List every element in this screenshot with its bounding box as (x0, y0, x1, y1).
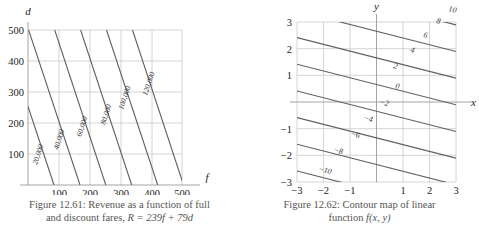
y-tick-200: 200 (8, 118, 24, 129)
contour-label-neg10: −10 (318, 164, 333, 176)
x-tick-1: 1 (400, 185, 405, 195)
x-tick-labels: −3 −2 −1 1 2 3 (291, 185, 458, 195)
contour-label-2: 2 (393, 61, 399, 71)
y-tick-400: 400 (8, 56, 24, 67)
linear-contour-svg: −10 −8 −6 −4 −2 0 2 4 6 8 10 3 2 1 (240, 0, 479, 195)
y-axis-label-y: y (373, 0, 379, 12)
x-tick-neg3: −3 (291, 185, 302, 195)
y-tick-300: 300 (8, 87, 24, 98)
figure-caption-12-62: Figure 12.62: Contour map of linear func… (240, 198, 479, 224)
contour-label-100000: 100,000 (116, 84, 132, 110)
y-tick-neg3: −3 (281, 177, 292, 188)
revenue-contour-plot: 20,000 40,000 60,000 80,000 100,000 120,… (0, 0, 239, 195)
caption-line-1: Figure 12.61: Revenue as a function of f… (0, 198, 239, 211)
contour-label-neg2: −2 (379, 97, 390, 108)
x-tick-neg2: −2 (318, 185, 329, 195)
y-tick-labels: 500 400 300 200 100 (8, 25, 24, 160)
figure-caption-12-61: Figure 12.61: Revenue as a function of f… (0, 198, 239, 224)
y-tick-500: 500 (8, 25, 24, 36)
contour-label-neg6: −6 (350, 129, 361, 140)
x-tick-400: 400 (144, 188, 160, 195)
y-tick-3: 3 (287, 17, 292, 28)
x-axis-label-x: x (470, 96, 476, 108)
contour-label-60000: 60,000 (74, 115, 89, 138)
caption-formula: f(x, y) (366, 212, 390, 223)
contour-label-neg4: −4 (363, 113, 374, 124)
x-tick-300: 300 (113, 188, 129, 195)
x-tick-labels: 100 200 300 400 500 (51, 188, 190, 195)
y-tick-1: 1 (287, 70, 292, 81)
x-tick-200: 200 (82, 188, 98, 195)
caption-text: and discount fares, (46, 212, 128, 223)
horizontal-gridlines (28, 30, 182, 154)
y-tick-neg1: −1 (281, 124, 292, 135)
linear-contour-plot: −10 −8 −6 −4 −2 0 2 4 6 8 10 3 2 1 (240, 0, 479, 195)
contour-label-120000: 120,000 (140, 70, 156, 96)
figure-pair-page: 20,000 40,000 60,000 80,000 100,000 120,… (0, 0, 479, 237)
contour-label-0: 0 (395, 81, 401, 91)
x-tick-2: 2 (427, 185, 432, 195)
contour-labels: 20,000 40,000 60,000 80,000 100,000 120,… (30, 70, 156, 165)
x-tick-neg1: −1 (344, 185, 355, 195)
caption-text: function (328, 212, 366, 223)
caption-formula: R = 239f + 79d (128, 212, 194, 223)
contour-label-6: 6 (423, 30, 429, 40)
caption-line-1: Figure 12.62: Contour map of linear (240, 198, 479, 211)
y-tick-2: 2 (287, 44, 292, 55)
contour-labels: −10 −8 −6 −4 −2 0 2 4 6 8 10 (318, 4, 458, 176)
caption-line-2: function f(x, y) (240, 211, 479, 224)
contour-label-10: 10 (448, 4, 458, 15)
figure-12-61: 20,000 40,000 60,000 80,000 100,000 120,… (0, 0, 239, 237)
x-tick-3: 3 (453, 185, 458, 195)
axes (20, 22, 200, 185)
y-tick-neg2: −2 (281, 150, 292, 161)
x-tick-500: 500 (174, 188, 190, 195)
contour-label-8: 8 (436, 16, 442, 26)
contour-label-4: 4 (410, 45, 416, 55)
revenue-contour-svg: 20,000 40,000 60,000 80,000 100,000 120,… (0, 0, 239, 195)
caption-line-2: and discount fares, R = 239f + 79d (0, 211, 239, 224)
y-tick-100: 100 (8, 149, 24, 160)
y-axis-label-d: d (25, 5, 31, 17)
x-axis-label-f: f (205, 171, 210, 183)
x-tick-100: 100 (51, 188, 67, 195)
contour-label-40000: 40,000 (51, 128, 66, 151)
figure-12-62: −10 −8 −6 −4 −2 0 2 4 6 8 10 3 2 1 (240, 0, 479, 237)
contour-label-neg8: −8 (333, 145, 344, 156)
